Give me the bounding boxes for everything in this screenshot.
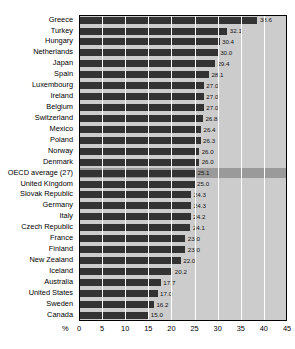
- plot-border-left: [79, 15, 80, 321]
- bar: [79, 312, 148, 319]
- bar-row: 30.4: [79, 37, 287, 47]
- category-label: Norway: [48, 146, 73, 156]
- bar-value-label: 26.3: [203, 136, 215, 145]
- category-label: New Zealand: [29, 255, 73, 265]
- bar-value-label: 26.4: [204, 125, 216, 134]
- bar-row: 16.2: [79, 299, 287, 309]
- x-tick-label: 30: [214, 323, 222, 335]
- category-label: Italy: [59, 211, 73, 221]
- bar-row: 22.0: [79, 255, 287, 265]
- category-label: United States: [29, 288, 73, 298]
- bar-row: 26.0: [79, 157, 287, 167]
- bar: [79, 246, 185, 253]
- bar: [79, 191, 191, 198]
- bar: [79, 202, 191, 209]
- bar-chart: GreeceTurkeyHungaryNetherlandsJapanSpain…: [0, 0, 295, 349]
- bar-row: 28.1: [79, 70, 287, 80]
- category-label: Greece: [49, 15, 73, 25]
- bar-value-label: 20.2: [175, 267, 187, 276]
- bar-row: 27.0: [79, 102, 287, 112]
- gridline-20: [171, 15, 172, 321]
- bar-row: 17.7: [79, 277, 287, 287]
- bar-row: 25.0: [79, 179, 287, 189]
- bar: [79, 137, 201, 144]
- bar-row: 24.1: [79, 223, 287, 233]
- x-tick-label: 20: [167, 323, 175, 335]
- category-label: Mexico: [50, 124, 73, 134]
- x-tick-label: 10: [121, 323, 129, 335]
- category-label: Belgium: [46, 102, 73, 112]
- x-tick-label: 35: [237, 323, 245, 335]
- bar: [79, 290, 158, 297]
- category-label: Poland: [50, 135, 73, 145]
- x-tick-label: 40: [260, 323, 268, 335]
- bar: [79, 71, 209, 78]
- bar-row: 24.3: [79, 190, 287, 200]
- bar: [79, 159, 199, 166]
- category-label: France: [50, 233, 73, 243]
- bar-value-label: 24.3: [194, 201, 206, 210]
- plot-border-bottom: [79, 320, 287, 321]
- bar-row: 26.4: [79, 124, 287, 134]
- category-label: Denmark: [43, 157, 73, 167]
- bar-value-label: 15.0: [151, 310, 163, 319]
- gridline-10: [125, 15, 126, 321]
- bar-row: 26.8: [79, 113, 287, 123]
- bar: [79, 235, 185, 242]
- x-tick-label: 45: [283, 323, 291, 335]
- bar: [79, 224, 190, 231]
- bar-row: 26.3: [79, 135, 287, 145]
- bar: [79, 257, 181, 264]
- bar-row: 32.1: [79, 26, 287, 36]
- category-label: Finland: [49, 244, 73, 254]
- category-label: Switzerland: [35, 113, 73, 123]
- category-axis-labels: GreeceTurkeyHungaryNetherlandsJapanSpain…: [0, 15, 76, 321]
- category-label: Slovak Republic: [20, 189, 73, 199]
- x-tick-label: 0: [77, 323, 81, 335]
- bar-row: 20.2: [79, 266, 287, 276]
- bar: [79, 301, 154, 308]
- category-label: Ireland: [50, 91, 73, 101]
- category-label: Spain: [54, 69, 73, 79]
- category-label: Turkey: [51, 26, 73, 36]
- bar-value-label: 25.1: [198, 168, 210, 177]
- gridline-5: [102, 15, 103, 321]
- category-label: Japan: [53, 58, 73, 68]
- category-label: Hungary: [45, 36, 73, 46]
- bar-row: 23.0: [79, 234, 287, 244]
- bar: [79, 17, 257, 24]
- bar-value-label: 30.4: [222, 37, 234, 46]
- bar-value-label: 25.0: [197, 179, 209, 188]
- bar-value-label: 22.0: [183, 256, 195, 265]
- bar-value-label: 17.7: [163, 278, 175, 287]
- x-tick-label: 5: [100, 323, 104, 335]
- bar-row: 17.0: [79, 288, 287, 298]
- bar-rows: 38.632.130.430.029.428.127.027.027.026.8…: [79, 15, 287, 321]
- x-axis-unit-label: %: [62, 323, 69, 335]
- bar-value-label: 27.0: [206, 103, 218, 112]
- bar: [79, 93, 204, 100]
- plot-area: 38.632.130.430.029.428.127.027.027.026.8…: [79, 15, 287, 321]
- x-tick-label: 25: [190, 323, 198, 335]
- category-label: Australia: [44, 277, 73, 287]
- bar-value-label: 16.2: [156, 300, 168, 309]
- gridline-15: [148, 15, 149, 321]
- bar-row: 30.0: [79, 48, 287, 58]
- bar: [79, 82, 204, 89]
- bar-row: 27.0: [79, 81, 287, 91]
- plot-border-right: [286, 15, 287, 321]
- gridline-40: [264, 15, 265, 321]
- bar-value-label: 29.4: [217, 59, 229, 68]
- bar-row: 27.0: [79, 92, 287, 102]
- category-label: Canada: [47, 310, 73, 320]
- category-label: Sweden: [46, 299, 73, 309]
- bar-value-label: 26.0: [202, 157, 214, 166]
- plot-border-top: [79, 15, 287, 16]
- bar: [79, 213, 191, 220]
- bar-value-label: 38.6: [260, 15, 272, 24]
- bar-value-label: 27.0: [206, 81, 218, 90]
- bar-value-label: 26.8: [205, 114, 217, 123]
- category-label: OECD average (27): [8, 168, 73, 178]
- bar-row: 15.0: [79, 310, 287, 320]
- bar-value-label: 24.3: [194, 190, 206, 199]
